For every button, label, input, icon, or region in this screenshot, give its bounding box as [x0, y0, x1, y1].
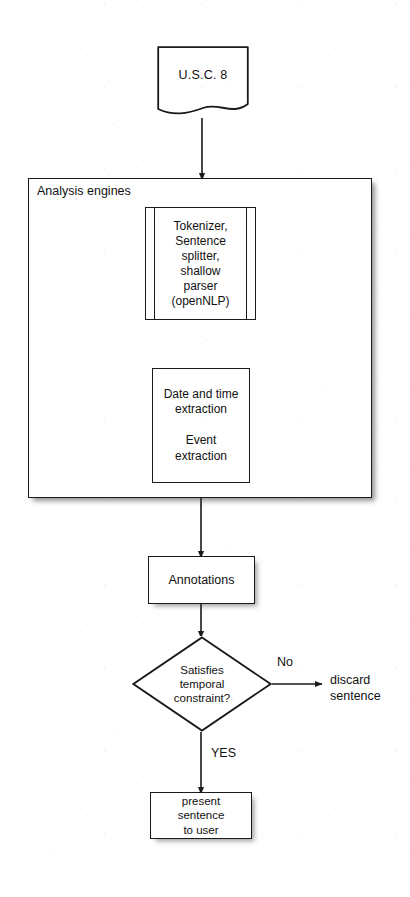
- flowchart-canvas: U.S.C. 8 Analysis engines Tokenizer, Sen…: [0, 0, 410, 897]
- nlp-process-label: Tokenizer, Sentence splitter, shallow pa…: [146, 218, 255, 309]
- source-document-label: U.S.C. 8: [157, 68, 249, 82]
- analysis-engines-label: Analysis engines: [37, 184, 131, 198]
- discard-sentence-label: discard sentence: [330, 672, 381, 705]
- edge-label-yes: YES: [211, 746, 236, 760]
- decision-label: Satisfies temporal constraint?: [132, 663, 272, 705]
- document-icon: [157, 46, 249, 118]
- annotations-box[interactable]: Annotations: [148, 556, 255, 604]
- extraction-process-box[interactable]: Date and time extraction Event extractio…: [152, 368, 250, 483]
- decision-diamond[interactable]: Satisfies temporal constraint?: [132, 636, 272, 732]
- extraction-process-label: Date and time extraction Event extractio…: [145, 387, 257, 465]
- source-document-shape[interactable]: [157, 46, 249, 118]
- present-sentence-box[interactable]: present sentence to user: [150, 792, 252, 839]
- nlp-process-box[interactable]: Tokenizer, Sentence splitter, shallow pa…: [145, 207, 256, 320]
- edge-label-no: No: [277, 655, 293, 669]
